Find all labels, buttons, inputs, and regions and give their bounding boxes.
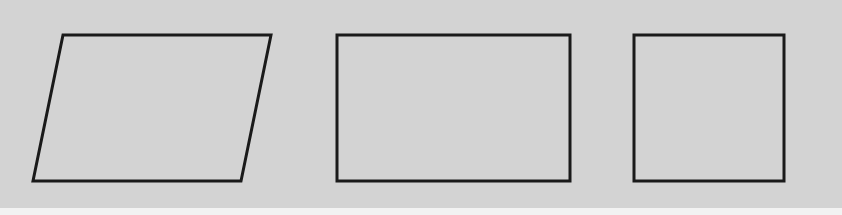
rectangle-shape	[337, 35, 570, 181]
shapes-canvas	[0, 0, 842, 215]
square-shape	[634, 35, 784, 181]
parallelogram-shape	[33, 35, 271, 181]
